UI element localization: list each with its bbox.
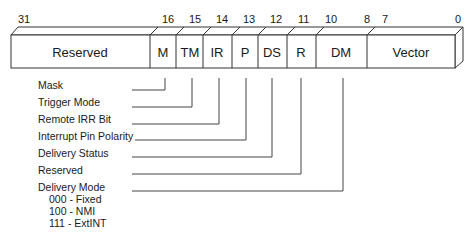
- legend-trigger-mode: Trigger Mode: [38, 96, 100, 108]
- bit-number: 12: [270, 13, 282, 25]
- field-r: R: [296, 45, 305, 60]
- bit-number: 16: [162, 13, 174, 25]
- field-m: M: [158, 45, 169, 60]
- field-ir: IR: [211, 45, 224, 60]
- field-vector: Vector: [393, 45, 431, 60]
- field-ds: DS: [263, 45, 281, 60]
- field-p: P: [241, 45, 250, 60]
- legend-pin-polarity: Interrupt Pin Polarity: [38, 130, 134, 142]
- bit-number: 14: [216, 13, 228, 25]
- delivery-mode-fixed: 000 - Fixed: [49, 193, 102, 205]
- delivery-mode-nmi: 100 - NMI: [49, 205, 95, 217]
- legend-mask: Mask: [38, 79, 64, 91]
- bit-number: 10: [325, 13, 337, 25]
- bit-number: 31: [18, 13, 30, 25]
- bit-number: 15: [189, 13, 201, 25]
- legend-delivery-status: Delivery Status: [38, 147, 109, 159]
- field-reserved-high: Reserved: [52, 45, 108, 60]
- bit-numbers: 31 16 15 14 13 12 11 10 8 7 0: [18, 13, 461, 25]
- bit-number: 11: [298, 13, 309, 25]
- legend-reserved: Reserved: [38, 164, 83, 176]
- legend: Mask Trigger Mode Remote IRR Bit Interru…: [38, 79, 134, 193]
- legend-delivery-mode: Delivery Mode: [38, 181, 105, 193]
- field-tm: TM: [181, 45, 200, 60]
- legend-remote-irr: Remote IRR Bit: [38, 113, 111, 125]
- field-dm: DM: [331, 45, 351, 60]
- register-diagram: 31 16 15 14 13 12 11 10 8 7 0 Reserved M…: [0, 0, 473, 234]
- leader-lines: [132, 78, 343, 191]
- bit-number: 13: [243, 13, 255, 25]
- delivery-mode-extint: 111 - ExtINT: [49, 217, 107, 229]
- delivery-mode-values: 000 - Fixed 100 - NMI 111 - ExtINT: [49, 193, 107, 229]
- bit-number: 8: [364, 13, 370, 25]
- bit-number: 0: [455, 13, 461, 25]
- bit-number: 7: [382, 13, 388, 25]
